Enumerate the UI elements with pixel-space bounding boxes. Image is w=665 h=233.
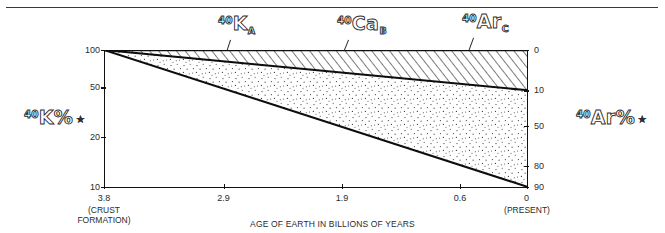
left-axis-star-icon: ★	[75, 113, 85, 126]
annotation-ar40-element: Ar	[477, 10, 502, 32]
annotation-ca40: 40CaB	[337, 14, 387, 35]
y-left-tickmark-100	[101, 50, 106, 51]
right-axis-element: Ar	[591, 106, 616, 128]
y-left-label-10: 10	[76, 183, 100, 192]
annotation-ca40-sub: B	[379, 25, 386, 36]
x-axis-line	[104, 187, 528, 188]
y-left-tickmark-50	[101, 87, 106, 88]
right-axis-star-icon: ★	[637, 113, 647, 126]
annotation-k40-element: K	[233, 12, 248, 34]
y-right-tickmark-0	[524, 50, 529, 51]
annotation-k40-sub: A	[248, 25, 255, 36]
x-label-1-9: 1.9	[322, 193, 362, 203]
left-axis-title: 40K%★	[24, 108, 85, 128]
x-axis-caption: AGE OF EARTH IN BILLIONS OF YEARS	[0, 219, 665, 229]
annotation-ar40-sub: C	[502, 23, 509, 34]
x-tickmark-2-9	[224, 184, 225, 189]
y-right-label-80: 80	[534, 162, 558, 171]
x-label-0: 0	[507, 193, 547, 203]
y-right-label-10: 10	[534, 86, 558, 95]
y-left-tickmark-20	[101, 137, 106, 138]
y-right-tickmark-80	[524, 166, 529, 167]
annotation-ca40-mass: 40	[337, 14, 352, 26]
y-left-label-50: 50	[76, 83, 100, 92]
x-tickmark-0	[527, 184, 528, 189]
x-note-present: (PRESENT)	[492, 205, 562, 215]
annotation-k40-mass: 40	[218, 14, 233, 26]
y-left-label-100: 100	[76, 46, 100, 55]
right-axis-percent: %	[616, 106, 636, 128]
right-axis-title: 40Ar%★	[576, 108, 647, 128]
y-left-label-20: 20	[76, 133, 100, 142]
y-right-label-50: 50	[534, 122, 558, 131]
x-tickmark-0-6	[460, 184, 461, 189]
top-divider-rule	[6, 7, 658, 8]
chart-figure: 40K%★ 40Ar%★ 40KA 40CaB 40ArC	[0, 0, 665, 233]
annotation-k40: 40KA	[218, 14, 255, 35]
x-note-crust-line1: (CRUST	[74, 205, 134, 215]
annotation-ca40-element: Ca	[352, 12, 380, 34]
x-label-0-6: 0.6	[440, 193, 480, 203]
right-axis-mass: 40	[576, 108, 591, 120]
band-stack	[104, 50, 528, 188]
annotation-ar40: 40ArC	[462, 12, 509, 33]
x-axis-caption-text: AGE OF EARTH IN BILLIONS OF YEARS	[250, 219, 415, 229]
y-axis-left-line	[104, 50, 105, 188]
x-label-2-9: 2.9	[204, 193, 244, 203]
x-label-3-8: 3.8	[84, 193, 124, 203]
x-tickmark-3-8	[104, 184, 105, 189]
y-axis-right-line	[527, 50, 528, 188]
left-axis-percent: %	[54, 106, 74, 128]
left-axis-mass: 40	[24, 108, 39, 120]
annotation-ar40-mass: 40	[462, 12, 477, 24]
left-axis-element: K	[39, 106, 54, 128]
x-tickmark-1-9	[342, 184, 343, 189]
y-right-label-90: 90	[534, 183, 558, 192]
y-right-tickmark-10	[524, 90, 529, 91]
plot-area	[104, 50, 528, 188]
y-right-label-0: 0	[534, 46, 558, 55]
y-right-tickmark-50	[524, 126, 529, 127]
